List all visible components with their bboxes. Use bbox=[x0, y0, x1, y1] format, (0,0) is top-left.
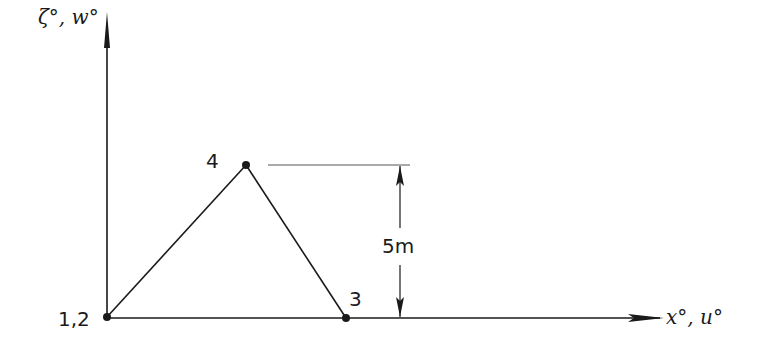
node-1-2 bbox=[103, 313, 111, 321]
vertical-axis: ζ°, w° bbox=[38, 5, 110, 317]
truss-diagram: ζ°, w° x°, u° 5m 1,2 4 3 bbox=[0, 0, 774, 352]
horizontal-axis: x°, u° bbox=[107, 305, 723, 329]
node-3 bbox=[342, 314, 350, 322]
dimension-label: 5m bbox=[382, 234, 414, 258]
height-dimension: 5m bbox=[268, 165, 414, 317]
node-4 bbox=[242, 161, 250, 169]
node-4-label: 4 bbox=[206, 149, 219, 173]
node-3-label: 3 bbox=[349, 287, 362, 311]
vertical-axis-arrow-icon bbox=[104, 12, 110, 48]
nodes: 1,2 4 3 bbox=[58, 149, 362, 331]
member-4-3 bbox=[246, 165, 346, 318]
node-1-2-label: 1,2 bbox=[58, 307, 90, 331]
member-1-4 bbox=[107, 165, 246, 317]
horizontal-axis-label: x°, u° bbox=[666, 305, 723, 329]
vertical-axis-label: ζ°, w° bbox=[38, 5, 99, 29]
truss-members bbox=[107, 165, 346, 318]
